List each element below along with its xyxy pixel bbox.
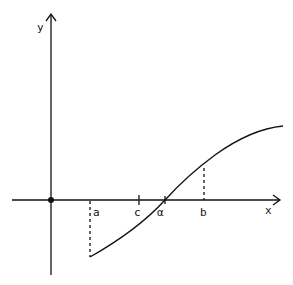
label-c: c [134,206,141,219]
label-b: b [200,206,207,219]
label-alpha: α [157,206,164,219]
function-curve [90,126,283,257]
y-axis-label: y [37,21,44,34]
function-graph: y x a c α b [0,0,293,285]
label-a: a [93,206,100,219]
origin-dot [48,197,54,203]
x-axis-label: x [265,204,272,217]
